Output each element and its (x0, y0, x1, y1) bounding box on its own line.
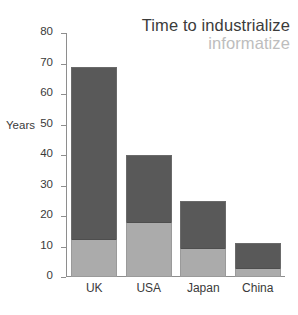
y-axis-title: Years (6, 119, 35, 131)
y-tick-20: 20 (61, 216, 66, 217)
bar-segment-japan-informatize (180, 248, 226, 277)
bar-segment-usa-informatize (126, 222, 172, 277)
y-tick-70: 70 (61, 64, 66, 65)
y-tick-label-60: 60 (40, 86, 53, 98)
bar-uk (71, 67, 117, 277)
bar-series-container (67, 33, 285, 277)
bar-segment-uk-industrialize (71, 67, 117, 239)
y-tick-80: 80 (61, 33, 66, 34)
stacked-bar-chart: Time to industrialize informatize Years … (0, 0, 298, 315)
y-tick-50: 50 (61, 125, 66, 126)
y-tick-label-40: 40 (40, 147, 53, 159)
bar-japan (180, 201, 226, 277)
bar-china (235, 243, 281, 277)
y-tick-10: 10 (61, 247, 66, 248)
y-tick-label-0: 0 (47, 269, 53, 281)
bar-segment-uk-informatize (71, 239, 117, 277)
bar-segment-china-industrialize (235, 243, 281, 267)
category-label-japan: Japan (176, 281, 231, 295)
y-tick-label-70: 70 (40, 56, 53, 68)
y-tick-30: 30 (61, 186, 66, 187)
bar-usa (126, 155, 172, 277)
plot-area: 01020304050607080 (66, 33, 285, 277)
x-axis-category-labels: UKUSAJapanChina (67, 281, 285, 301)
y-tick-0: 0 (61, 277, 66, 278)
category-label-uk: UK (67, 281, 122, 295)
bar-segment-usa-industrialize (126, 155, 172, 222)
y-tick-label-80: 80 (40, 25, 53, 37)
y-tick-60: 60 (61, 94, 66, 95)
bar-segment-china-informatize (235, 268, 281, 277)
category-label-usa: USA (122, 281, 177, 295)
y-tick-label-30: 30 (40, 178, 53, 190)
y-tick-label-20: 20 (40, 208, 53, 220)
bar-segment-japan-industrialize (180, 201, 226, 248)
y-tick-label-10: 10 (40, 239, 53, 251)
y-tick-label-50: 50 (40, 117, 53, 129)
category-label-china: China (231, 281, 286, 295)
y-tick-40: 40 (61, 155, 66, 156)
